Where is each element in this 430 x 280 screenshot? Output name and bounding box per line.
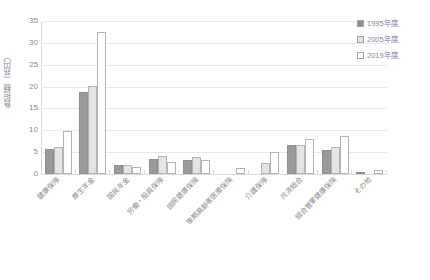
bar <box>114 165 123 174</box>
bar <box>192 157 201 174</box>
y-tick-label: 25 <box>2 61 38 69</box>
legend-swatch-icon-2019 <box>357 52 364 59</box>
x-category-label: 国民年金 <box>106 176 131 201</box>
bar-group <box>283 21 318 174</box>
x-category-label: 国民健康保険 <box>165 176 200 211</box>
bar-group <box>179 21 214 174</box>
bar-group <box>41 21 76 174</box>
bar <box>236 168 245 174</box>
bar <box>79 92 88 174</box>
bar <box>123 165 132 174</box>
x-category-label: 厚生年金 <box>71 176 96 201</box>
bar <box>132 167 141 174</box>
y-axis-ticks: 05101520253035 <box>0 21 38 174</box>
x-category-label: その他 <box>353 176 374 197</box>
legend-label-1995: 1995年度 <box>367 19 398 28</box>
bar <box>45 149 54 174</box>
bar-group <box>110 21 145 174</box>
bar <box>167 162 176 174</box>
bar <box>374 170 383 174</box>
bar <box>97 32 106 174</box>
bar <box>261 163 270 174</box>
bar <box>63 131 72 174</box>
bar <box>54 147 63 174</box>
bar-group <box>76 21 111 174</box>
legend: 1995年度 2005年度 2019年度 <box>357 18 398 61</box>
y-tick-label: 30 <box>2 39 38 47</box>
x-axis-category-labels: 健康保険厚生年金国民年金労働・船員保険国民健康保険後期高齢者医療保険介護保険共済… <box>41 176 387 276</box>
bar-group <box>318 21 353 174</box>
bar <box>322 150 331 174</box>
bar <box>296 145 305 174</box>
y-tick-label: 10 <box>2 126 38 134</box>
bar-group <box>145 21 180 174</box>
bar-chart: 負担額（兆円） 05101520253035 健康保険厚生年金国民年金労働・船員… <box>0 0 430 280</box>
legend-label-2019: 2019年度 <box>367 51 398 60</box>
bar <box>149 159 158 174</box>
y-tick-label: 15 <box>2 104 38 112</box>
legend-swatch-icon-2005 <box>357 36 364 43</box>
bar <box>356 172 365 174</box>
bar <box>201 160 210 174</box>
y-tick-label: 20 <box>2 83 38 91</box>
legend-item-2005: 2005年度 <box>357 34 398 45</box>
x-category-label: 介護保険 <box>244 176 269 201</box>
x-category-label: 共済組合 <box>279 176 304 201</box>
y-tick-label: 35 <box>2 17 38 25</box>
legend-item-1995: 1995年度 <box>357 18 398 29</box>
x-tick-mark <box>386 170 387 174</box>
bar <box>158 156 167 174</box>
gridline <box>41 174 387 175</box>
bar <box>305 139 314 174</box>
x-category-label: 労働・船員保険 <box>125 176 165 216</box>
plot-area <box>41 21 387 174</box>
legend-item-2019: 2019年度 <box>357 50 398 61</box>
bar-groups <box>41 21 387 174</box>
legend-swatch-icon-1995 <box>357 20 364 27</box>
bar <box>287 145 296 174</box>
bar <box>88 86 97 174</box>
bar <box>340 136 349 174</box>
bar-group <box>214 21 249 174</box>
bar <box>270 152 279 174</box>
y-tick-label: 0 <box>2 170 38 178</box>
y-tick-label: 5 <box>2 148 38 156</box>
legend-label-2005: 2005年度 <box>367 35 398 44</box>
bar-group <box>249 21 284 174</box>
bar <box>183 160 192 174</box>
x-category-label: 健康保険 <box>36 176 61 201</box>
bar <box>331 147 340 174</box>
